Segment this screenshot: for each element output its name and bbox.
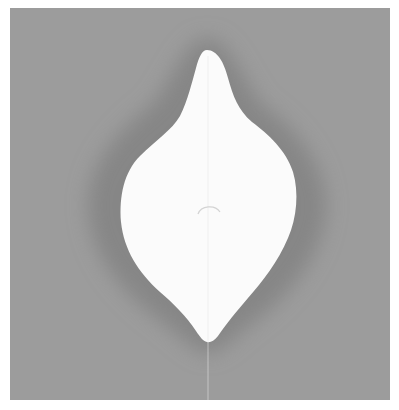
specimen-figure: [0, 0, 399, 410]
